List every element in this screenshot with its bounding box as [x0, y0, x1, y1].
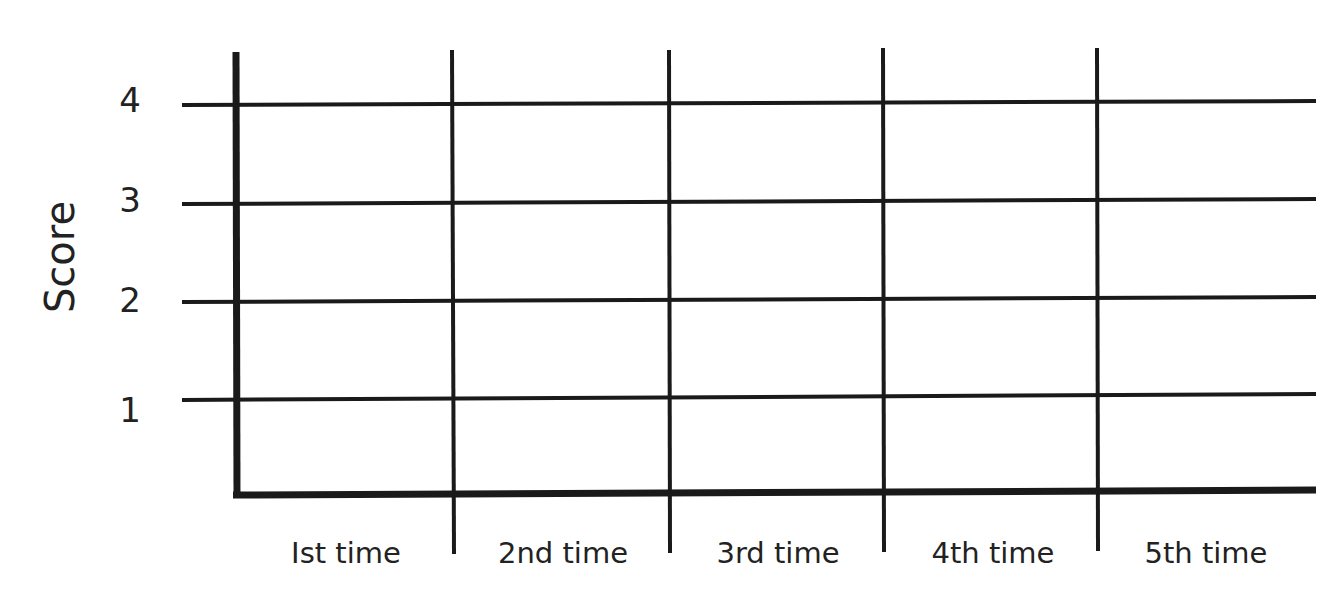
- gridline-3: [182, 199, 1316, 204]
- gridline-4: [182, 101, 1316, 105]
- x-tick-4th: 4th time: [893, 536, 1093, 570]
- x-tick-2nd: 2nd time: [463, 536, 663, 570]
- vline-1: [452, 50, 454, 554]
- x-tick-1st: Ist time: [246, 536, 446, 570]
- gridline-1: [182, 394, 1316, 400]
- x-axis: [233, 490, 1316, 495]
- y-axis: [236, 52, 237, 497]
- gridline-2: [182, 297, 1316, 302]
- chart-grid: [0, 0, 1344, 605]
- y-tick-1: 1: [118, 390, 142, 430]
- x-tick-3rd: 3rd time: [678, 536, 878, 570]
- vline-2: [669, 50, 670, 553]
- x-tick-5th: 5th time: [1106, 536, 1306, 570]
- y-tick-3: 3: [118, 180, 142, 220]
- vline-3: [883, 48, 884, 552]
- vline-4: [1097, 48, 1098, 551]
- y-tick-4: 4: [118, 80, 142, 120]
- y-axis-label: Score: [37, 201, 83, 313]
- y-tick-2: 2: [118, 280, 142, 320]
